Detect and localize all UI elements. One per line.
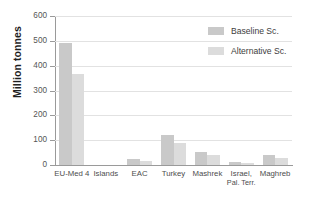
y-axis-tick-label: 200 — [7, 111, 47, 119]
y-axis-tick-label: 100 — [7, 136, 47, 144]
bar-group — [93, 16, 118, 165]
bar-alternative — [72, 74, 85, 165]
bar-alternative — [241, 163, 254, 165]
bar-group — [59, 16, 84, 165]
x-axis-label: Maghreb — [250, 169, 300, 178]
legend: Baseline Sc.Alternative Sc. — [208, 25, 286, 65]
x-axis-label-line1: EAC — [132, 169, 148, 178]
bar-group — [161, 16, 186, 165]
x-axis-label-line1: Maghreb — [260, 169, 291, 178]
y-axis-tick-label: 500 — [7, 37, 47, 45]
bar-baseline — [59, 43, 72, 165]
bar-baseline — [161, 135, 174, 165]
bar-alternative — [207, 155, 220, 165]
legend-item: Baseline Sc. — [208, 25, 286, 36]
bar-baseline — [127, 159, 140, 165]
bar-baseline — [195, 152, 208, 165]
bar-baseline — [263, 155, 276, 165]
bar-group — [127, 16, 152, 165]
legend-swatch-baseline — [208, 27, 224, 35]
x-axis-label-line1: Israel, — [231, 169, 252, 178]
y-axis-tick-label: 0 — [7, 161, 47, 169]
bar-alternative — [275, 158, 288, 165]
bar-alternative — [174, 143, 187, 165]
y-axis-tick-label: 300 — [7, 87, 47, 95]
x-axis-line — [55, 165, 293, 166]
legend-swatch-alternative — [208, 47, 224, 55]
legend-label: Baseline Sc. — [231, 26, 279, 36]
bar-alternative — [140, 161, 153, 165]
y-axis-tick-label: 400 — [7, 62, 47, 70]
bar-chart: Million tonnes 6005004003002001000 EU-Me… — [0, 0, 309, 219]
x-axis-label-line2: Pal. Terr. — [216, 178, 266, 187]
legend-label: Alternative Sc. — [231, 46, 286, 56]
bar-baseline — [229, 162, 242, 165]
y-axis-tick-label: 600 — [7, 12, 47, 20]
legend-item: Alternative Sc. — [208, 45, 286, 56]
